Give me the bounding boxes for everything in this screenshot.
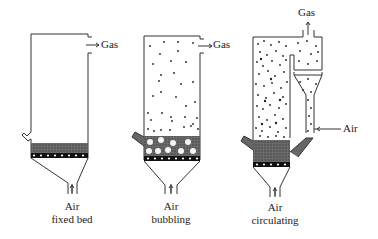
fixed-bed-type-label: fixed bed xyxy=(42,213,102,226)
circulating-air-arrow-icon xyxy=(273,188,277,197)
fixed-bed-gas-arrow-icon xyxy=(86,43,99,47)
circulating-side-air-label: Air xyxy=(343,122,358,134)
bubbling-type-label: bubbling xyxy=(140,213,202,226)
fixed-bed-reactor xyxy=(22,34,92,194)
bubbling-gas-arrow-icon xyxy=(198,44,212,48)
circulating-gas-arrow-icon xyxy=(306,22,310,35)
fixed-bed-caption: Air fixed bed xyxy=(42,200,102,226)
bubbling-air-label: Air xyxy=(140,200,202,213)
circulating-air-label: Air xyxy=(240,201,310,214)
circulating-caption: Air circulating xyxy=(240,201,310,227)
circulating-gas-label: Gas xyxy=(298,6,315,18)
fixed-bed-gas-label: Gas xyxy=(101,38,118,50)
fixed-bed-air-label: Air xyxy=(42,200,102,213)
bubbling-gas-label: Gas xyxy=(213,38,230,50)
circulating-reactor xyxy=(241,30,341,197)
bubbling-caption: Air bubbling xyxy=(140,200,202,226)
bubbling-reactor xyxy=(132,36,204,194)
circulating-particles xyxy=(255,40,319,138)
bubbling-air-arrow-icon xyxy=(169,185,173,194)
fixed-bed-air-arrow-icon xyxy=(70,185,74,194)
bubbling-particles xyxy=(147,41,199,132)
circulating-type-label: circulating xyxy=(240,214,310,227)
